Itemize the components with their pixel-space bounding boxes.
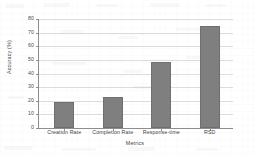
y-axis-tick-label: 80 [28,16,34,21]
bar-group: Creation Rate [54,19,74,128]
y-axis-tick-label: 20 [28,98,34,103]
x-axis-tick-label: Creation Rate [47,130,81,135]
y-axis-tick-label: 70 [28,30,34,35]
y-axis-tick-mark [36,87,39,88]
y-axis-tick-label: 0 [31,125,34,130]
y-axis-tick-mark [36,60,39,61]
bar [151,62,171,128]
y-axis-tick-mark [36,33,39,34]
y-axis-tick-label: 60 [28,44,34,49]
y-axis-tick-mark [36,46,39,47]
x-axis-tick-label: Response-time [143,130,180,135]
y-axis-tick-label: 10 [28,112,34,117]
y-axis-tick-mark [36,101,39,102]
x-axis-tick-label: RSD [204,130,215,135]
bar [200,26,220,128]
bar [54,102,74,128]
y-axis-tick-mark [36,19,39,20]
y-axis-tick-label: 50 [28,57,34,62]
bars-layer: Creation RateCompletion RateResponse-tim… [40,19,234,128]
bar-chart-figure: Accuracy (%) 01020304050607080 Creation … [0,0,254,154]
y-axis-tick-mark [36,114,39,115]
y-axis-tick-mark [36,128,39,129]
bar [103,97,123,128]
y-axis-tick-label: 40 [28,71,34,76]
y-axis-tick-mark [36,74,39,75]
plot-area: 01020304050607080 Creation RateCompletio… [38,19,233,129]
bar-group: RSD [200,19,220,128]
x-axis-tick-label: Completion Rate [92,130,133,135]
y-axis-title: Accuracy (%) [7,40,12,74]
bar-group: Response-time [151,19,171,128]
x-axis-title: Metrics [38,141,232,146]
y-axis-tick-label: 30 [28,85,34,90]
bar-group: Completion Rate [103,19,123,128]
